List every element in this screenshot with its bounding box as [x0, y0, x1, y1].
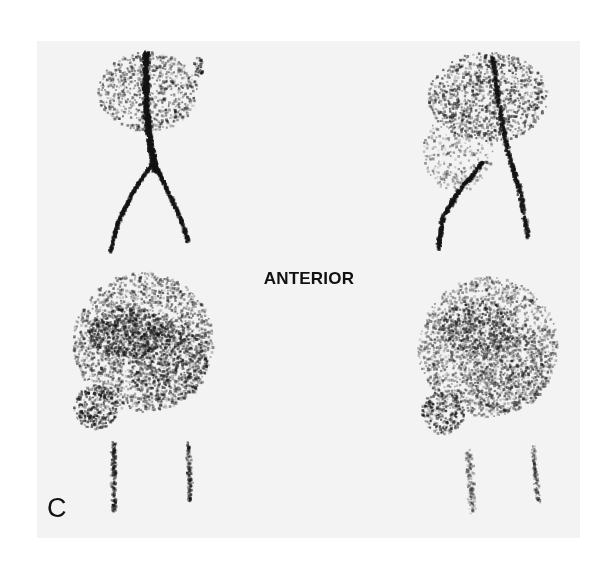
panel-letter: C — [47, 493, 67, 524]
scintigraphy-figure-panel: ANTERIOR C — [37, 41, 580, 538]
view-label: ANTERIOR — [244, 269, 374, 289]
scintigram-images — [37, 41, 580, 538]
